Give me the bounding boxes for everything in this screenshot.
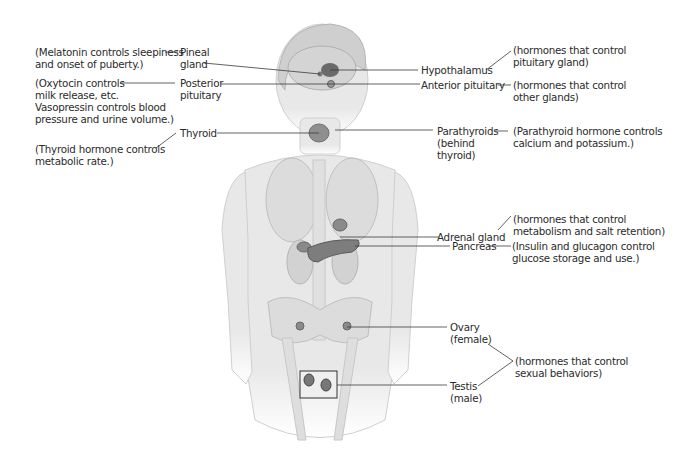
right-lung	[326, 158, 378, 242]
text-line: Thyroid	[180, 127, 217, 139]
text-line: (male)	[450, 392, 482, 404]
text-line: (Melatonin controls sleepiness	[35, 46, 184, 58]
text-line: pituitary	[180, 89, 223, 101]
adrenal-description: (hormones that control metabolism and sa…	[513, 213, 665, 237]
text-line: thyroid)	[437, 149, 498, 161]
text-line: (Thyroid hormone controls	[35, 143, 165, 155]
endocrine-diagram: (Melatonin controls sleepiness and onset…	[0, 0, 678, 457]
text-line: (female)	[450, 333, 492, 345]
parathyroids-description: (Parathyroid hormone controls calcium an…	[513, 125, 662, 149]
text-line: Testis	[450, 380, 482, 392]
text-line: (hormones that control	[515, 355, 628, 367]
text-line: Vasopressin controls blood	[35, 101, 174, 113]
text-line: (hormones that control	[513, 79, 626, 91]
pineal-description: (Melatonin controls sleepiness and onset…	[35, 46, 184, 70]
text-line: (hormones that control	[513, 44, 626, 56]
hypothalamus-label: Hypothalamus	[421, 64, 493, 76]
pancreas-label: Pancreas	[452, 240, 496, 252]
text-line: and onset of puberty.)	[35, 58, 184, 70]
text-line: pituitary gland)	[513, 56, 626, 68]
posterior-pituitary-label: Posterior pituitary	[180, 77, 223, 101]
pineal-label: Pineal gland	[180, 46, 209, 70]
text-line: calcium and potassium.)	[513, 137, 662, 149]
text-line: Anterior pituitary	[421, 79, 505, 91]
text-line: metabolic rate.)	[35, 155, 165, 167]
anterior-pituitary-description: (hormones that control other glands)	[513, 79, 626, 103]
left-ovary	[296, 322, 304, 330]
text-line: Posterior	[180, 77, 223, 89]
text-line: Pineal	[180, 46, 209, 58]
sexual-hormones-description: (hormones that control sexual behaviors)	[515, 355, 628, 379]
thyroid-description: (Thyroid hormone controls metabolic rate…	[35, 143, 165, 167]
text-line: Pancreas	[452, 240, 496, 252]
left-testis	[304, 374, 314, 386]
thyroid-label: Thyroid	[180, 127, 217, 139]
hypothalamus-description: (hormones that control pituitary gland)	[513, 44, 626, 68]
right-testis	[321, 379, 331, 391]
text-line: gland	[180, 58, 209, 70]
text-line: Hypothalamus	[421, 64, 493, 76]
parathyroids-label: Parathyroids (behind thyroid)	[437, 125, 498, 161]
text-line: (hormones that control	[513, 213, 665, 225]
left-lung	[266, 158, 318, 242]
text-line: (Oxytocin controls	[35, 77, 174, 89]
text-line: (Insulin and glucagon control	[512, 240, 655, 252]
text-line: (Parathyroid hormone controls	[513, 125, 662, 137]
text-line: glucose storage and use.)	[512, 252, 655, 264]
ovary-label: Ovary (female)	[450, 321, 492, 345]
text-line: other glands)	[513, 91, 626, 103]
text-line: Ovary	[450, 321, 492, 333]
text-line: metabolism and salt retention)	[513, 225, 665, 237]
pancreas-description: (Insulin and glucagon control glucose st…	[512, 240, 655, 264]
text-line: (behind	[437, 137, 498, 149]
anterior-pituitary-label: Anterior pituitary	[421, 79, 505, 91]
posterior-pituitary-description: (Oxytocin controls milk release, etc. Va…	[35, 77, 174, 125]
right-adrenal	[333, 219, 347, 231]
text-line: Parathyroids	[437, 125, 498, 137]
text-line: sexual behaviors)	[515, 367, 628, 379]
right-ovary	[343, 322, 351, 330]
text-line: milk release, etc.	[35, 89, 174, 101]
testis-label: Testis (male)	[450, 380, 482, 404]
text-line: pressure and urine volume.)	[35, 113, 174, 125]
